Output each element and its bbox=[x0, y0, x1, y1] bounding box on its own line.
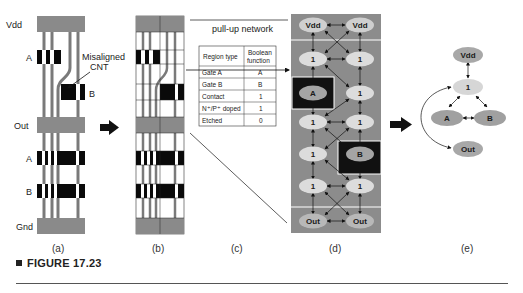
panel-d: Vdd Vdd 1 1 A 1 1 1 bbox=[291, 14, 381, 254]
panel-e: Vdd 1 A B Out (e) bbox=[421, 47, 506, 254]
svg-text:1: 1 bbox=[466, 83, 471, 92]
svg-text:Vdd: Vdd bbox=[460, 51, 475, 60]
gate-a-label-bottom: A bbox=[26, 154, 32, 164]
panel-b: (b) bbox=[136, 16, 184, 254]
svg-text:1: 1 bbox=[358, 118, 363, 127]
svg-text:1: 1 bbox=[311, 182, 316, 191]
bottom-rule bbox=[16, 283, 508, 284]
table-header-function: function bbox=[247, 57, 270, 64]
svg-text:B: B bbox=[357, 150, 363, 159]
grid-node: 1 bbox=[346, 52, 374, 67]
panel-d-label: (d) bbox=[329, 243, 341, 254]
vdd-rail bbox=[37, 16, 85, 32]
annotation-cnt: CNT bbox=[90, 62, 109, 72]
svg-text:1: 1 bbox=[358, 55, 363, 64]
gnd-label: Gnd bbox=[16, 222, 33, 232]
figure-caption: FIGURE 17.23 bbox=[16, 257, 102, 269]
svg-text:Out: Out bbox=[306, 217, 320, 226]
table-header-region-type: Region type bbox=[203, 53, 238, 61]
table-cell: Contact bbox=[202, 93, 225, 100]
graph-node-b: B bbox=[474, 110, 506, 126]
grid-node-gate-b: B bbox=[346, 147, 374, 162]
vdd-label: Vdd bbox=[6, 20, 22, 30]
table-cell: B bbox=[258, 81, 262, 88]
svg-text:Vdd: Vdd bbox=[305, 21, 320, 30]
graph-node-out: Out bbox=[453, 141, 483, 157]
grid-node: 1 bbox=[299, 147, 327, 162]
gate-a-bottom bbox=[37, 151, 85, 165]
region-table: Region type Boolean function Gate A A Ga… bbox=[199, 46, 276, 126]
gate-b-bottom bbox=[37, 184, 85, 198]
arrow-d-to-e-icon bbox=[390, 117, 412, 132]
table-header-boolean: Boolean bbox=[248, 49, 272, 56]
gate-b-top bbox=[61, 84, 85, 100]
svg-text:A: A bbox=[310, 89, 316, 98]
svg-text:1: 1 bbox=[311, 55, 316, 64]
svg-text:Out: Out bbox=[353, 217, 367, 226]
panel-a: Vdd A B Out A B Gnd Misaligned CNT (a) bbox=[6, 16, 125, 254]
caption-square-icon bbox=[16, 260, 22, 266]
graph-node-one: 1 bbox=[453, 79, 483, 95]
table-cell: N⁺/P⁺ doped bbox=[202, 105, 241, 113]
gate-b-label-top: B bbox=[89, 89, 95, 99]
panel-a-label: (a) bbox=[52, 243, 64, 254]
grid-node: Out bbox=[346, 214, 374, 229]
svg-text:1: 1 bbox=[358, 182, 363, 191]
svg-text:1: 1 bbox=[358, 89, 363, 98]
svg-text:1: 1 bbox=[311, 118, 316, 127]
graph-node-vdd: Vdd bbox=[453, 47, 483, 63]
gnd-rail bbox=[37, 218, 85, 234]
out-rail bbox=[37, 117, 85, 133]
grid-node: 1 bbox=[346, 115, 374, 130]
gate-a-label-top: A bbox=[26, 53, 32, 63]
figure-17-23: Vdd A B Out A B Gnd Misaligned CNT (a) bbox=[0, 0, 523, 293]
svg-text:Vdd: Vdd bbox=[352, 21, 367, 30]
svg-text:Out: Out bbox=[461, 145, 475, 154]
annotation-misaligned: Misaligned bbox=[82, 52, 125, 62]
grid-node: 1 bbox=[346, 179, 374, 194]
grid-node-gate-a: A bbox=[299, 86, 327, 101]
arrow-a-to-b-icon bbox=[100, 120, 119, 135]
panel-c-label: (c) bbox=[231, 243, 243, 254]
svg-text:1: 1 bbox=[311, 150, 316, 159]
panel-c: pull-up network Region type Boolean func… bbox=[186, 20, 289, 254]
grid-node: 1 bbox=[299, 179, 327, 194]
grid-node: 1 bbox=[346, 86, 374, 101]
grid-node: 1 bbox=[299, 115, 327, 130]
grid-node: Out bbox=[299, 214, 327, 229]
svg-text:A: A bbox=[444, 114, 450, 123]
table-cell: Gate B bbox=[202, 81, 222, 88]
panel-b-label: (b) bbox=[152, 243, 164, 254]
panel-e-label: (e) bbox=[461, 243, 473, 254]
table-cell: Etched bbox=[202, 117, 223, 124]
gate-a-top bbox=[37, 50, 61, 64]
gate-b-label-bottom: B bbox=[26, 187, 32, 197]
graph-node-a: A bbox=[431, 110, 463, 126]
grid-node: 1 bbox=[299, 52, 327, 67]
table-cell: 0 bbox=[259, 117, 263, 124]
figure-caption-label: FIGURE 17.23 bbox=[27, 257, 102, 269]
out-label: Out bbox=[14, 121, 29, 131]
grid-node: Vdd bbox=[346, 18, 374, 33]
pullup-network-label: pull-up network bbox=[212, 24, 274, 34]
table-cell: 1 bbox=[259, 93, 263, 100]
table-cell: 1 bbox=[259, 105, 263, 112]
grid-node: Vdd bbox=[299, 18, 327, 33]
svg-text:B: B bbox=[487, 114, 493, 123]
